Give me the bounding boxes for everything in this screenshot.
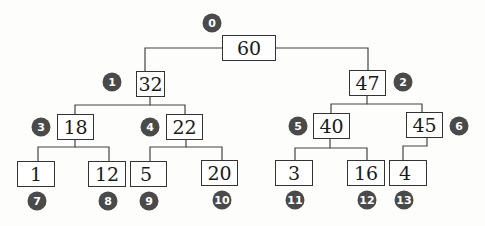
index-badge-5: 5 bbox=[289, 117, 308, 136]
index-badge-12: 12 bbox=[358, 191, 377, 210]
index-badge-1: 1 bbox=[103, 73, 122, 92]
index-badge-3: 3 bbox=[32, 118, 51, 137]
tree-node-12: 16 bbox=[347, 160, 385, 186]
index-badge-7: 7 bbox=[28, 192, 47, 211]
tree-node-2: 47 bbox=[349, 70, 386, 96]
tree-node-9: 5 bbox=[130, 161, 167, 187]
tree-node-13: 4 bbox=[389, 160, 427, 186]
tree-node-4: 22 bbox=[166, 114, 203, 140]
tree-node-11: 3 bbox=[275, 160, 313, 186]
index-badge-13: 13 bbox=[395, 191, 414, 210]
index-badge-9: 9 bbox=[140, 192, 159, 211]
tree-node-7: 1 bbox=[17, 161, 55, 187]
index-badge-4: 4 bbox=[141, 118, 160, 137]
tree-diagram: 60 32 47 18 22 40 45 1 12 5 20 3 16 4 0 … bbox=[0, 0, 485, 226]
tree-node-8: 12 bbox=[88, 161, 126, 187]
tree-node-1: 32 bbox=[136, 71, 165, 97]
tree-node-3: 18 bbox=[57, 114, 94, 140]
index-badge-11: 11 bbox=[286, 191, 305, 210]
index-badge-8: 8 bbox=[99, 192, 118, 211]
index-badge-10: 10 bbox=[213, 191, 232, 210]
tree-node-6: 45 bbox=[406, 112, 443, 138]
tree-node-0: 60 bbox=[222, 35, 276, 61]
index-badge-6: 6 bbox=[450, 117, 469, 136]
index-badge-0: 0 bbox=[203, 14, 222, 33]
tree-node-10: 20 bbox=[201, 160, 238, 186]
index-badge-2: 2 bbox=[394, 73, 413, 92]
tree-node-5: 40 bbox=[313, 113, 350, 139]
